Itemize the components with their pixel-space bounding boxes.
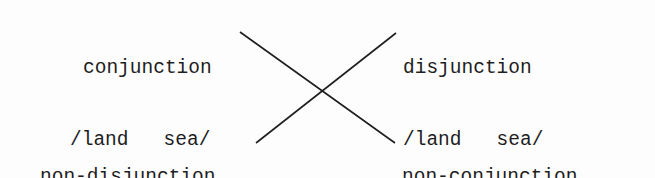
term-label: non-disjunction [28, 165, 216, 178]
edge-conjunction-to-non-conjunction [240, 32, 395, 143]
edge-non-disjunction-to-disjunction [256, 33, 396, 143]
node-non-disjunction: non-disjunction non-/land sea/ [28, 117, 216, 178]
node-non-conjunction: non-conjunction non-/land sea/ [402, 117, 589, 178]
term-label: disjunction [403, 56, 543, 80]
term-label: non-conjunction [402, 165, 589, 178]
term-label: conjunction [70, 56, 212, 80]
diagram-canvas: conjunction /land sea/ disjunction /land… [0, 0, 655, 178]
